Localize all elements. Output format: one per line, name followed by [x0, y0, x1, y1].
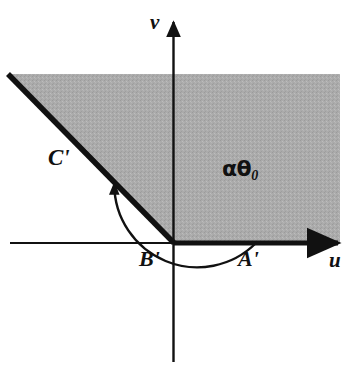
u-axis-label: u [329, 250, 341, 271]
v-axis-label: v [150, 12, 159, 33]
point-label-b-prime: B' [139, 248, 160, 270]
angle-label-main: αθ [222, 156, 251, 181]
ray-label-c-prime: C' [48, 146, 70, 169]
point-label-a-prime: A' [238, 248, 259, 270]
figure-root: v u B' A' C' αθ0 [0, 0, 351, 369]
angle-label-subscript: 0 [251, 168, 258, 183]
angle-label: αθ0 [222, 158, 258, 183]
uv-plane-diagram [0, 0, 351, 369]
